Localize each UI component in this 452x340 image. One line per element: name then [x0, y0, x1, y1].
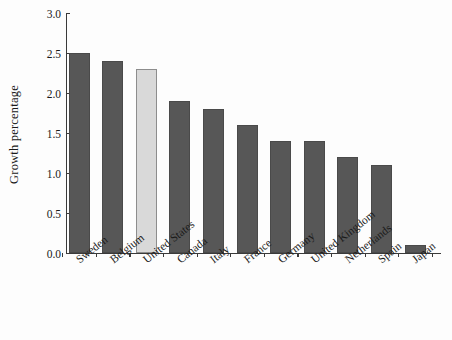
bar — [102, 61, 123, 253]
y-axis-tick: 2.0 — [47, 84, 66, 102]
y-axis-tick-mark — [66, 13, 70, 14]
x-axis-tick-mark — [163, 253, 164, 257]
bar-chart-figure: Growth percentage 0.00.51.01.52.02.53.0 … — [0, 0, 452, 340]
y-axis-tick-label: 2.0 — [47, 88, 61, 100]
x-axis-tick-mark — [62, 253, 63, 257]
y-axis-tick-label: 1.0 — [47, 168, 61, 180]
y-axis-tick-mark — [66, 253, 70, 254]
y-axis-tick: 3.0 — [47, 4, 66, 22]
y-axis-tick: 0.5 — [47, 204, 66, 222]
bar — [270, 141, 291, 253]
bar — [136, 69, 157, 253]
y-axis-tick-label: 0.5 — [47, 208, 61, 220]
bar — [69, 53, 90, 253]
x-axis-tick-mark — [96, 253, 97, 257]
y-axis-title-text: Growth percentage — [7, 85, 22, 184]
y-axis-title: Growth percentage — [2, 0, 26, 268]
y-axis-tick: 1.0 — [47, 164, 66, 182]
y-axis-tick-label: 1.5 — [47, 128, 61, 140]
y-axis-tick-label: 3.0 — [47, 8, 61, 20]
x-axis-tick-mark — [230, 253, 231, 257]
y-axis-tick-label: 2.5 — [47, 48, 61, 60]
y-axis-tick: 1.5 — [47, 124, 66, 142]
bar — [237, 125, 258, 253]
x-axis-tick-mark — [432, 253, 433, 257]
y-axis-tick-label: 0.0 — [47, 248, 61, 260]
bar — [203, 109, 224, 253]
x-axis-tick-mark — [264, 253, 265, 257]
plot-area: 0.00.51.01.52.02.53.0 — [66, 13, 441, 253]
y-axis-tick: 2.5 — [47, 44, 66, 62]
x-axis-tick-mark — [331, 253, 332, 257]
x-axis-tick-mark — [398, 253, 399, 257]
